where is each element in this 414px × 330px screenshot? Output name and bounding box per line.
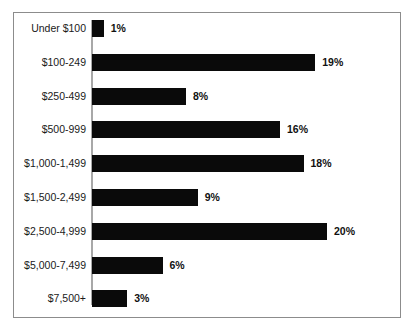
clipped-title-text: [70, 0, 250, 5]
bar-shape: [92, 54, 315, 71]
bar-row: $1,000-1,49918%: [14, 155, 402, 189]
bar-row: $5,000-7,4996%: [14, 257, 402, 291]
bar-shape: [92, 223, 327, 240]
bar-row: $1,500-2,4999%: [14, 189, 402, 223]
chart-frame: Under $1001%$100-24919%$250-4998%$500-99…: [13, 12, 401, 318]
bar-shape: [92, 20, 104, 37]
bar-value-label: 16%: [287, 121, 308, 138]
bar-row: $2,500-4,99920%: [14, 223, 402, 257]
bar-row: Under $1001%: [14, 20, 402, 54]
bar-category-label: $1,000-1,499: [14, 155, 86, 172]
bar-value-label: 9%: [205, 189, 220, 206]
bar-category-label: $1,500-2,499: [14, 189, 86, 206]
bar-category-label: Under $100: [14, 20, 86, 37]
bar-category-label: $5,000-7,499: [14, 257, 86, 274]
bar-shape: [92, 121, 280, 138]
bar-value-label: 19%: [322, 54, 343, 71]
bar-row: $500-99916%: [14, 121, 402, 155]
bar-row: $7,500+3%: [14, 290, 402, 324]
bar-value-label: 6%: [170, 257, 185, 274]
bar-shape: [92, 155, 304, 172]
bar-category-label: $500-999: [14, 121, 86, 138]
bar-row: $250-4998%: [14, 88, 402, 122]
bar-shape: [92, 290, 127, 307]
bar-category-label: $7,500+: [14, 290, 86, 307]
bar-category-label: $2,500-4,999: [14, 223, 86, 240]
bar-row: $100-24919%: [14, 54, 402, 88]
bar-value-label: 18%: [311, 155, 332, 172]
bar-value-label: 8%: [193, 88, 208, 105]
plot-area: Under $1001%$100-24919%$250-4998%$500-99…: [14, 13, 402, 319]
bar-category-label: $250-499: [14, 88, 86, 105]
bar-value-label: 20%: [334, 223, 355, 240]
bar-shape: [92, 88, 186, 105]
bar-shape: [92, 189, 198, 206]
bar-shape: [92, 257, 163, 274]
bar-value-label: 1%: [111, 20, 126, 37]
bar-category-label: $100-249: [14, 54, 86, 71]
bar-chart: Under $1001%$100-24919%$250-4998%$500-99…: [0, 0, 414, 330]
bar-value-label: 3%: [134, 290, 149, 307]
